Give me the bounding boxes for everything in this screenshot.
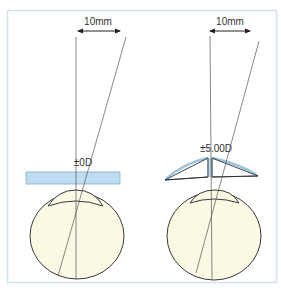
left-distance-label: 10mm — [84, 16, 112, 27]
right-eye-globe — [167, 192, 261, 280]
left-flat-lens — [26, 172, 120, 184]
left-power-label: ±0D — [74, 157, 92, 168]
right-power-label: ±5.00D — [200, 143, 232, 154]
right-distance-label: 10mm — [216, 16, 244, 27]
diagram-canvas: 10mm ±0D 10mm ±5.00D — [0, 0, 281, 290]
left-eye-globe — [30, 193, 124, 279]
